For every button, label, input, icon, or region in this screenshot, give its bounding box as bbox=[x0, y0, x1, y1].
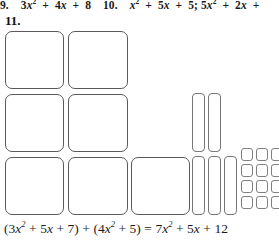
x-strip-tile bbox=[224, 156, 237, 215]
x-squared-tile bbox=[5, 94, 64, 152]
x-strip-tile bbox=[192, 93, 205, 152]
unit-tile bbox=[241, 180, 253, 193]
x-squared-tile bbox=[5, 157, 64, 215]
unit-tile bbox=[271, 148, 279, 161]
algebra-tiles-diagram bbox=[0, 0, 279, 240]
unit-tile bbox=[241, 164, 253, 177]
equation-plus: + bbox=[115, 221, 130, 237]
equation-plus: + bbox=[200, 221, 215, 237]
equation-plus: + bbox=[53, 221, 68, 237]
unit-tile bbox=[271, 196, 279, 209]
unit-tile bbox=[256, 164, 268, 177]
worksheet-page: 9. 3x2 + 4x + 8 10. x2 + 5x + 5; 5x2 + 2… bbox=[0, 0, 279, 240]
unit-tile bbox=[241, 148, 253, 161]
unit-tile bbox=[256, 180, 268, 193]
x-strip-tile bbox=[192, 156, 205, 215]
unit-tile bbox=[271, 180, 279, 193]
x-squared-tile bbox=[68, 157, 128, 215]
equation-plus: + bbox=[79, 221, 94, 237]
equation-equals: = bbox=[141, 221, 156, 237]
equation: (3x2+5x+7)+(4x2+5)=7x2+5x+12 bbox=[4, 219, 279, 239]
unit-tile bbox=[271, 164, 279, 177]
x-strip-tile bbox=[208, 156, 221, 215]
x-squared-tile bbox=[68, 31, 128, 89]
equation-coefficient-5: 5 bbox=[40, 221, 47, 236]
x-squared-tile bbox=[5, 31, 64, 89]
unit-tile bbox=[256, 196, 268, 209]
x-squared-tile bbox=[131, 157, 190, 215]
x-squared-tile bbox=[68, 94, 128, 152]
equation-result-coefficient-5: 5 bbox=[187, 221, 194, 236]
equation-plus: + bbox=[172, 221, 187, 237]
unit-tile bbox=[256, 148, 268, 161]
equation-plus: + bbox=[26, 221, 41, 237]
equation-coefficient-4: 4 bbox=[98, 221, 105, 236]
x-strip-tile bbox=[208, 93, 221, 152]
unit-tile bbox=[241, 196, 253, 209]
equation-result-constant-12: 12 bbox=[214, 221, 228, 236]
